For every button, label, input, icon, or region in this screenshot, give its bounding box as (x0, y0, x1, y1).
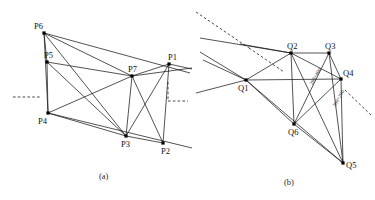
panel-a-extension-ray (132, 68, 192, 76)
panel-a-vertex-label-P6: P6 (34, 22, 43, 31)
panel-a-vertex-label-P1: P1 (168, 53, 177, 62)
panel-b-vertex-label-Q3: Q3 (325, 42, 336, 51)
panel-a-caption: (a) (99, 172, 108, 181)
panel-a-vertex-label-P2: P2 (161, 147, 170, 156)
panel-a-vertex-P6 (42, 31, 45, 34)
panel-b-extension-ray (203, 60, 246, 80)
panel-a-edge-P4-P3 (48, 113, 126, 136)
panel-b-vertex-Q2 (289, 51, 292, 54)
panel-b-vertex-Q3 (327, 51, 330, 54)
figure-canvas (0, 0, 375, 200)
panel-b-extension-ray (200, 52, 246, 80)
panel-a-edge-P6-P3 (44, 33, 126, 136)
panel-a-edge-P4-P7 (48, 76, 132, 113)
panel-b-vertex-label-Q2: Q2 (287, 42, 298, 51)
figure-container: P6P5P4P7P1P3P2Q2Q3Q1Q4Q6Q5208+400208+200… (0, 0, 375, 200)
panel-b-dashed-line (196, 12, 249, 48)
panel-b-caption: (b) (284, 178, 294, 187)
panel-b-edge-Q1-Q5 (246, 80, 343, 163)
panel-b-vertex-Q6 (292, 122, 295, 125)
panel-a-edge-P6-P7 (44, 33, 132, 76)
panel-b-vertex-label-Q1: Q1 (238, 84, 249, 93)
panel-b-vertex-Q1 (244, 78, 247, 81)
panel-a-vertex-P4 (46, 111, 49, 114)
panel-b-edge-Q2-Q6 (291, 53, 294, 124)
panel-a-vertex-label-P4: P4 (38, 117, 47, 126)
panel-a-vertex-label-P5: P5 (44, 51, 53, 60)
panel-b-vertex-label-Q6: Q6 (288, 128, 299, 137)
panel-a-edge-P7-P2 (132, 76, 163, 143)
panel-b-vertex-Q5 (341, 161, 344, 164)
panel-a-edge-P1-P2 (163, 64, 169, 143)
panel-b-edge-Q1-Q4 (246, 79, 341, 80)
panel-b-extension-ray (240, 44, 291, 53)
panel-a-edge-P7-P1 (132, 64, 169, 76)
panel-a-vertex-P7 (130, 74, 133, 77)
panel-a-vertex-P2 (161, 141, 164, 144)
panel-b-vertex-label-Q5: Q5 (346, 161, 357, 170)
panel-a-vertex-P3 (124, 134, 127, 137)
panel-a-vertex-P1 (167, 62, 170, 65)
panel-b-dashed-line (345, 90, 372, 116)
panel-b-edge-Q6-Q5 (294, 124, 343, 163)
panel-a-vertex-label-P3: P3 (121, 140, 130, 149)
panel-b-edge-Q2-Q1 (246, 53, 291, 80)
panel-a-vertex-label-P7: P7 (128, 65, 137, 74)
panel-a-vertex-P5 (45, 60, 48, 63)
panel-b-vertex-label-Q4: Q4 (343, 69, 354, 78)
